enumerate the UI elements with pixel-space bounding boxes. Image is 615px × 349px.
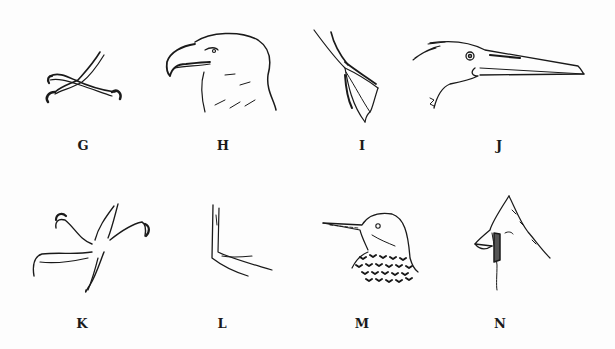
- bird-feature-illustration: G H I: [0, 0, 615, 349]
- label-n: N: [480, 316, 520, 331]
- cardinal-head-drawing: [0, 0, 615, 349]
